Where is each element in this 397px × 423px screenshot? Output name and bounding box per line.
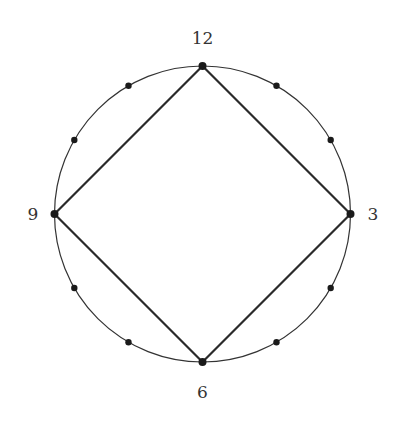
hour-dot — [71, 285, 77, 291]
label-6: 6 — [197, 382, 208, 402]
hour-dot — [125, 339, 131, 345]
hour-dot — [51, 210, 59, 218]
hour-dot — [273, 339, 279, 345]
hour-dot — [347, 210, 355, 218]
hour-dot — [125, 83, 131, 89]
clock-diagram: 12 3 6 9 — [0, 0, 397, 423]
label-3: 3 — [368, 204, 379, 224]
hour-dot — [71, 137, 77, 143]
hour-dot — [328, 285, 334, 291]
hour-dot — [199, 62, 207, 70]
hour-dots — [51, 62, 355, 366]
label-12: 12 — [192, 28, 214, 48]
clock-circle — [55, 66, 351, 362]
hour-dot — [273, 83, 279, 89]
inscribed-square — [55, 66, 351, 362]
hour-dot — [199, 358, 207, 366]
label-9: 9 — [28, 204, 39, 224]
hour-dot — [328, 137, 334, 143]
